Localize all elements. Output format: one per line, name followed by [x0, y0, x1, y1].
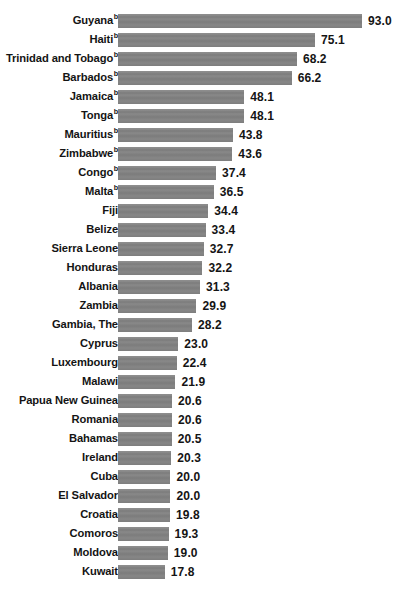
bar-row: Congob37.4 [0, 164, 408, 183]
bar-row: Zambia29.9 [0, 297, 408, 316]
value-label: 48.1 [250, 109, 274, 123]
bar [118, 470, 170, 484]
bar-track: 32.2 [118, 261, 408, 275]
bar-row: Trinidad and Tobagob68.2 [0, 50, 408, 69]
category-label: Sierra Leone [51, 240, 118, 260]
bar-track: 23.0 [118, 337, 408, 351]
category-label: Belize [86, 221, 118, 241]
bar-row: Malawi21.9 [0, 373, 408, 392]
bar-track: 20.0 [118, 489, 408, 503]
bar-track: 19.8 [118, 508, 408, 522]
value-label: 20.6 [178, 394, 202, 408]
bar-track: 17.8 [118, 565, 408, 579]
category-label: Zambia [79, 297, 118, 317]
bar [118, 299, 196, 313]
bar-row: Kuwait17.8 [0, 563, 408, 582]
bar-track: 48.1 [118, 109, 408, 123]
bar [118, 109, 244, 123]
bar-track: 34.4 [118, 204, 408, 218]
value-label: 68.2 [303, 52, 327, 66]
category-label: El Salvador [58, 487, 118, 507]
bar-rows: Guyanab93.0Haitib75.1Trinidad and Tobago… [0, 12, 408, 582]
bar-track: 20.6 [118, 394, 408, 408]
category-label: Gambia, The [52, 316, 118, 336]
bar-row: Fiji34.4 [0, 202, 408, 221]
category-label: Mauritiusb [64, 126, 118, 146]
value-label: 93.0 [368, 14, 392, 28]
category-label: Honduras [67, 259, 118, 279]
bar-track: 37.4 [118, 166, 408, 180]
bar-track: 19.0 [118, 546, 408, 560]
bar-track: 68.2 [118, 52, 408, 66]
category-label: Zimbabweb [59, 145, 118, 165]
category-label: Barbadosb [62, 69, 118, 89]
bar [118, 204, 208, 218]
category-label: Fiji [102, 202, 118, 222]
bar-track: 93.0 [118, 14, 408, 28]
category-label: Maltab [85, 183, 118, 203]
bar-track: 36.5 [118, 185, 408, 199]
bar-row: Luxembourg22.4 [0, 354, 408, 373]
bar-row: Bahamas20.5 [0, 430, 408, 449]
bar-row: Cuba20.0 [0, 468, 408, 487]
bar [118, 242, 204, 256]
value-label: 17.8 [171, 565, 195, 579]
value-label: 31.3 [206, 280, 230, 294]
bar [118, 432, 172, 446]
bar-track: 20.6 [118, 413, 408, 427]
value-label: 21.9 [181, 375, 205, 389]
bar [118, 52, 297, 66]
value-label: 36.5 [220, 185, 244, 199]
bar-row: Tongab48.1 [0, 107, 408, 126]
category-label: Romania [71, 411, 118, 431]
bar-track: 43.8 [118, 128, 408, 142]
category-label: Malawi [82, 373, 118, 393]
value-label: 20.6 [178, 413, 202, 427]
bar-row: Jamaicab48.1 [0, 88, 408, 107]
value-label: 32.2 [208, 261, 232, 275]
bar-row: Belize33.4 [0, 221, 408, 240]
bar [118, 451, 171, 465]
bar [118, 14, 362, 28]
bar-track: 21.9 [118, 375, 408, 389]
bar [118, 261, 202, 275]
value-label: 32.7 [210, 242, 234, 256]
bar-row: Mauritiusb43.8 [0, 126, 408, 145]
value-label: 22.4 [183, 356, 207, 370]
category-label: Croatia [80, 506, 118, 526]
category-label: Bahamas [69, 430, 118, 450]
value-label: 48.1 [250, 90, 274, 104]
value-label: 19.8 [176, 508, 200, 522]
bar-row: Croatia19.8 [0, 506, 408, 525]
bar [118, 185, 214, 199]
category-label: Trinidad and Tobagob [6, 50, 118, 70]
category-label: Papua New Guinea [19, 392, 118, 412]
category-label: Congob [78, 164, 118, 184]
bar-track: 20.3 [118, 451, 408, 465]
bar [118, 337, 178, 351]
bar [118, 546, 168, 560]
value-label: 29.9 [202, 299, 226, 313]
value-label: 23.0 [184, 337, 208, 351]
bar-track: 75.1 [118, 33, 408, 47]
bar-track: 32.7 [118, 242, 408, 256]
bar-row: Cyprus23.0 [0, 335, 408, 354]
value-label: 20.0 [176, 470, 200, 484]
value-label: 33.4 [212, 223, 236, 237]
bar-row: Guyanab93.0 [0, 12, 408, 31]
bar-row: Haitib75.1 [0, 31, 408, 50]
bar-track: 28.2 [118, 318, 408, 332]
bar-row: Comoros19.3 [0, 525, 408, 544]
bar [118, 128, 233, 142]
bar-row: Romania20.6 [0, 411, 408, 430]
category-label: Jamaicab [70, 88, 118, 108]
bar [118, 356, 177, 370]
bar [118, 413, 172, 427]
bar-row: Zimbabweb43.6 [0, 145, 408, 164]
bar [118, 280, 200, 294]
bar [118, 147, 232, 161]
bar-track: 31.3 [118, 280, 408, 294]
bar-track: 48.1 [118, 90, 408, 104]
bar [118, 166, 216, 180]
bar-row: Honduras32.2 [0, 259, 408, 278]
